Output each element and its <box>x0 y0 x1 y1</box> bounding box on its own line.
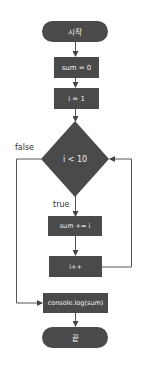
start-label: 시작 <box>68 26 82 37</box>
start-node: 시작 <box>42 21 108 42</box>
flowchart-canvas: 시작 sum = 0 i = 1 i < 10 false true sum +… <box>0 0 144 369</box>
output-label: console.log(sum) <box>48 299 104 307</box>
false-branch-label: false <box>15 143 34 152</box>
edge-condition-false <box>17 159 43 303</box>
accumulate-label: sum += i <box>60 222 91 230</box>
output-node: console.log(sum) <box>43 293 108 313</box>
true-branch-label: true <box>53 200 69 209</box>
edge-loop-back <box>102 159 132 267</box>
init-i-node: i = 1 <box>54 88 99 109</box>
end-node: 끝 <box>42 327 108 348</box>
increment-node: i++ <box>49 256 102 277</box>
init-sum-node: sum = 0 <box>54 57 99 78</box>
flowchart-connectors <box>0 0 144 369</box>
end-label: 끝 <box>72 332 79 343</box>
init-i-label: i = 1 <box>68 95 85 103</box>
condition-label: i < 10 <box>63 155 87 164</box>
increment-label: i++ <box>69 263 82 271</box>
init-sum-label: sum = 0 <box>62 64 92 72</box>
accumulate-node: sum += i <box>48 216 102 236</box>
